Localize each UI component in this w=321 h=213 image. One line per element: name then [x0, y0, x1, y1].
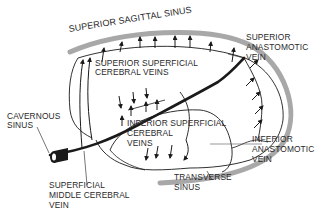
venous-drainage-diagram: SUPERIOR SAGITTAL SINUS SUPERIOR SUPERFI… — [0, 0, 321, 213]
label-inferior-anastomotic-vein-2: ANASTOMOTIC — [252, 144, 314, 154]
label-superficial-middle-cerebral-vein-3: VEIN — [49, 200, 69, 210]
label-superior-anastomotic-vein-2: ANASTOMOTIC — [246, 42, 308, 52]
downward-arrows — [119, 88, 147, 108]
label-inferior-anastomotic-vein-3: VEIN — [252, 154, 272, 164]
cavernous-sinus-tube — [50, 148, 68, 163]
label-transverse-sinus-1: TRANSVERSE — [174, 172, 232, 182]
label-superficial-middle-cerebral-vein-1: SUPERFICIAL — [49, 180, 105, 190]
label-inferior-superficial-cerebral-veins-3: VEINS — [127, 138, 153, 148]
label-superior-superficial-cerebral-veins-2: CEREBRAL VEINS — [95, 67, 169, 77]
label-transverse-sinus-2: SINUS — [174, 182, 200, 192]
label-inferior-superficial-cerebral-veins-2: CEREBRAL — [127, 128, 173, 138]
label-superior-anastomotic-vein-1: SUPERIOR — [246, 32, 291, 42]
label-inferior-anastomotic-vein-1: INFERIOR — [252, 134, 293, 144]
label-superficial-middle-cerebral-vein-2: MIDDLE CEREBRAL — [49, 190, 130, 200]
label-superior-anastomotic-vein-3: VEIN — [246, 52, 266, 62]
label-cavernous-sinus-2: SINUS — [7, 120, 33, 130]
label-inferior-superficial-cerebral-veins-1: INFERIOR SUPERFICIAL — [127, 118, 226, 128]
